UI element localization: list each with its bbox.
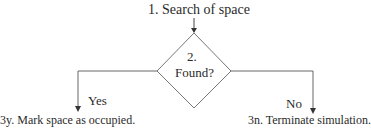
decision-number: 2.	[187, 50, 197, 63]
yes-edge-label: Yes	[88, 94, 107, 107]
start-node-label: 1. Search of space	[148, 3, 250, 17]
arrowhead-icon	[75, 106, 81, 112]
yes-result-label: 3y. Mark space as occupied.	[0, 114, 135, 126]
no-edge-label: No	[286, 97, 302, 110]
arrowhead-icon	[191, 28, 197, 33]
decision-label: Found?	[175, 66, 214, 79]
no-result-label: 3n. Terminate simulation.	[248, 114, 371, 126]
